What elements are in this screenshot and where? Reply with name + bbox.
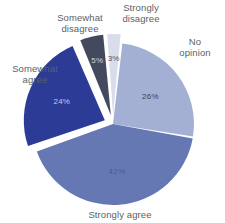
pie-label-strongly-agree: Strongly agree bbox=[58, 209, 182, 220]
pie-label-somewhat-agree: Somewhat agree bbox=[1, 63, 69, 85]
pie-value-label-strongly-disagree: 3% bbox=[108, 54, 120, 63]
pie-value-label-strongly-agree: 42% bbox=[109, 167, 126, 176]
pie-chart: 26%42%24%5%3% Somewhat disagree Strongly… bbox=[0, 0, 225, 223]
pie-label-no-opinion: No opinion bbox=[168, 36, 222, 58]
pie-slice-strongly-agree[interactable] bbox=[37, 124, 193, 205]
pie-label-somewhat-disagree: Somewhat disagree bbox=[41, 12, 119, 34]
pie-value-label-somewhat-agree: 24% bbox=[54, 97, 71, 106]
pie-value-label-no-opinion: 26% bbox=[142, 92, 159, 101]
pie-label-strongly-disagree: Strongly disagree bbox=[110, 2, 172, 24]
pie-value-label-somewhat-disagree: 5% bbox=[91, 56, 103, 65]
